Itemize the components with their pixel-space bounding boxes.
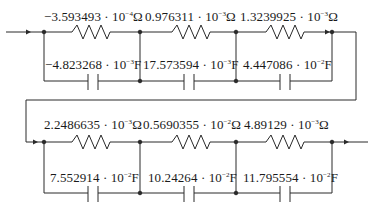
r5-label: 0.5690355 · 10−2Ω — [143, 118, 241, 131]
resistor-zigzag-icon — [172, 25, 210, 39]
resistor-zigzag-icon — [172, 135, 210, 149]
r6-label: 4.89129 · 10−3Ω — [244, 118, 329, 131]
c6-label: 11.795554 · 10−2F — [243, 171, 338, 184]
c1-label: −4.823268 · 10−3F — [45, 58, 141, 71]
r3-label: 1.3239925 · 10−3Ω — [240, 10, 338, 23]
resistor-zigzag-icon — [72, 25, 110, 39]
resistor-zigzag-icon — [266, 25, 304, 39]
c5-label: 10.24264 · 10−2F — [148, 171, 237, 184]
output-arrow-icon — [325, 30, 330, 35]
row2-circuit — [42, 135, 368, 202]
r4-label: 2.2486635 · 10−3Ω — [44, 118, 142, 131]
c4-label: 7.552914 · 10−2F — [50, 171, 139, 184]
input-arrow-icon — [26, 30, 31, 35]
c2-label: 17.573594 · 10−3F — [143, 58, 239, 71]
connector-arrow-icon — [33, 140, 38, 145]
resistor-zigzag-icon — [266, 135, 304, 149]
resistor-zigzag-icon — [72, 135, 110, 149]
r2-label: 0.976311 · 10−3Ω — [145, 10, 236, 23]
r1-label: −3.593493 · 10−4Ω — [44, 10, 143, 23]
c3-label: 4.447086 · 10−2F — [243, 58, 332, 71]
output-arrow-icon — [344, 140, 349, 145]
